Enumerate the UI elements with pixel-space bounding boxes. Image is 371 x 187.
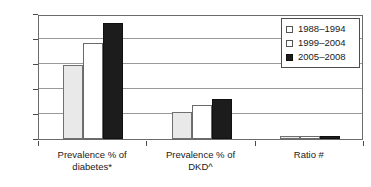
bar: [103, 23, 123, 139]
legend-item[interactable]: 1999–2004: [286, 36, 354, 50]
x-category-label-line: Prevalence % of: [58, 149, 127, 160]
legend-swatch-icon: [286, 54, 293, 61]
legend-swatch-icon: [286, 26, 293, 33]
x-tick-mark: [363, 141, 364, 146]
legend: 1988–1994 1999–2004 2005–2008: [281, 18, 360, 68]
bar: [192, 105, 212, 139]
legend-item-label: 2005–2008: [298, 52, 346, 62]
bar: [172, 112, 192, 139]
x-category-label: Prevalence % ofdiabetes*: [38, 149, 146, 172]
bar: [63, 65, 83, 139]
x-category-label-line: DKD^: [146, 161, 254, 173]
x-category-label-line: diabetes*: [38, 161, 146, 173]
bar: [212, 99, 232, 139]
bar: [320, 136, 340, 139]
x-tick-mark: [146, 141, 147, 146]
bar: [300, 136, 320, 139]
legend-item-label: 1988–1994: [298, 24, 346, 34]
x-category-label: Prevalence % ofDKD^: [146, 149, 254, 172]
bar: [280, 136, 300, 139]
x-category-label: Ratio #: [255, 149, 363, 161]
legend-item[interactable]: 1988–1994: [286, 22, 354, 36]
bar-chart: 0.02.04.06.08.010.0 Prevalence % ofdiabe…: [0, 0, 371, 187]
legend-item[interactable]: 2005–2008: [286, 50, 354, 64]
x-tick-mark: [255, 141, 256, 146]
legend-item-label: 1999–2004: [298, 38, 346, 48]
x-category-label-line: Ratio #: [294, 149, 324, 160]
legend-swatch-icon: [286, 40, 293, 47]
x-tick-mark: [38, 141, 39, 146]
bar: [83, 43, 103, 139]
x-category-label-line: Prevalence % of: [166, 149, 235, 160]
